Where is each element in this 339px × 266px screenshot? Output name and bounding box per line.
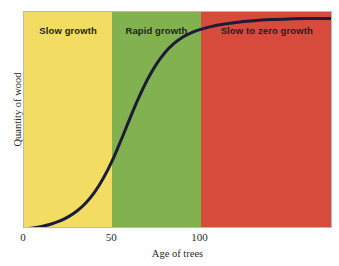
x-tick-label-0: 0 (20, 231, 26, 243)
plot-area: Slow growth Rapid growth Slow to zero gr… (23, 11, 332, 228)
x-axis-label: Age of trees (23, 248, 332, 259)
chart-figure: Slow growth Rapid growth Slow to zero gr… (0, 0, 339, 266)
y-axis-label: Quantity of wood (12, 40, 23, 180)
x-tick-label-50: 50 (106, 231, 117, 243)
growth-curve (24, 12, 332, 228)
x-tick-label-100: 100 (191, 231, 208, 243)
